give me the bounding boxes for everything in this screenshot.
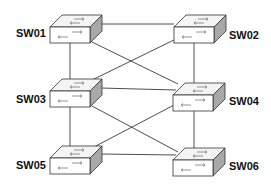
label-sw01: SW01 [16, 27, 46, 39]
label-sw04: SW04 [229, 95, 260, 107]
network-diagram: SW01 SW02 SW03 SW04 SW05 SW06 [0, 0, 271, 189]
network-switch-icon [50, 15, 102, 43]
link-sw03-sw04 [100, 88, 176, 90]
switch-sw03[interactable] [50, 79, 102, 107]
network-switch-icon [173, 83, 225, 111]
label-sw06: SW06 [229, 160, 259, 172]
switch-sw05[interactable] [50, 146, 102, 174]
switch-sw02[interactable] [174, 15, 226, 43]
link-sw01-sw04 [92, 42, 178, 84]
network-switch-icon [50, 146, 102, 174]
label-sw03: SW03 [16, 93, 46, 105]
network-switch-icon [50, 79, 102, 107]
switch-sw01[interactable] [50, 15, 102, 43]
link-sw02-sw03 [92, 38, 178, 80]
network-switch-icon [173, 148, 225, 176]
link-sw04-sw05 [92, 104, 176, 148]
link-sw03-sw06 [92, 106, 178, 152]
label-sw02: SW02 [229, 29, 259, 41]
network-switch-icon [174, 15, 226, 43]
label-sw05: SW05 [16, 159, 46, 171]
switch-sw06[interactable] [173, 148, 225, 176]
switch-sw04[interactable] [173, 83, 225, 111]
link-sw05-sw06 [100, 154, 176, 155]
